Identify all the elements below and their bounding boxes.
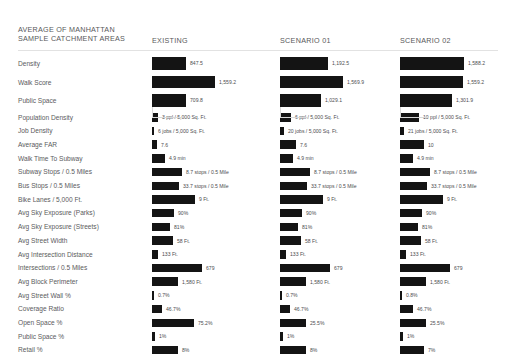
bar-value-label: 9 Ft. <box>447 196 457 202</box>
bar-value-label: 6 jobs / 5,000 Sq. Ft. <box>158 128 205 134</box>
bar-value-label: 81% <box>302 224 312 230</box>
bar-value-label: 33.7 stops / 0.5 Mile <box>183 183 229 189</box>
bar-value-label: 1,029.1 <box>325 97 342 103</box>
row-label: Bike Lanes / 5,000 Ft. <box>18 196 82 204</box>
bar <box>400 332 403 341</box>
group-connector <box>280 107 309 118</box>
page-title: AVERAGE OF MANHATTAN SAMPLE CATCHMENT AR… <box>18 25 148 44</box>
bar-value-label: 9 Ft. <box>327 196 337 202</box>
column-header-scenario-02: SCENARIO 02 <box>400 36 451 45</box>
bar <box>280 127 284 136</box>
bar <box>280 182 307 191</box>
column-header-scenario-01: SCENARIO 01 <box>280 36 331 45</box>
bar-value-label: 133 Ft. <box>410 251 426 257</box>
bar <box>400 209 422 218</box>
bar <box>400 236 421 245</box>
bar <box>400 168 430 177</box>
bar <box>280 94 321 107</box>
bar <box>152 76 215 89</box>
bar <box>152 264 202 273</box>
bar <box>400 195 443 204</box>
bar <box>280 223 298 232</box>
bar-value-label: 58 Ft. <box>177 238 190 244</box>
row-label: Public Space <box>18 97 57 105</box>
header-divider <box>18 50 498 51</box>
bar <box>400 346 424 355</box>
bar <box>400 277 426 286</box>
row-label: Job Density <box>18 127 52 135</box>
bar-value-label: 1,301.9 <box>456 97 473 103</box>
bar-value-label: 81% <box>174 224 184 230</box>
bar-value-label: 90% <box>178 210 188 216</box>
bar <box>400 57 464 70</box>
bar <box>280 291 282 300</box>
bar-value-label: 1,580 Ft. <box>310 279 330 285</box>
bar-value-label: 46.7% <box>294 306 308 312</box>
bar-value-label: 7.6 <box>300 142 307 148</box>
bar <box>152 94 186 107</box>
bar-value-label: 133 Ft. <box>290 251 306 257</box>
bar <box>400 127 404 136</box>
bar-value-label: 25.5% <box>430 320 444 326</box>
bar <box>152 305 162 314</box>
row-label: Open Space % <box>18 319 62 327</box>
bar <box>152 168 182 177</box>
bar <box>280 76 343 89</box>
bar <box>280 264 330 273</box>
bar <box>280 277 306 286</box>
bar-value-label: 33.7 stops / 0.5 Mile <box>311 183 357 189</box>
bar-value-label: 1,580 Ft. <box>430 279 450 285</box>
bar <box>280 250 286 259</box>
row-label: Avg Street Width <box>18 237 67 245</box>
bar-value-label: 1% <box>287 333 294 339</box>
bar-value-label: 8.7 stops / 0.5 Mile <box>434 169 477 175</box>
bar-value-label: 4.9 min <box>417 155 434 161</box>
bar-value-label: 1% <box>407 333 414 339</box>
bar-value-label: 1% <box>159 333 166 339</box>
row-label: Coverage Ratio <box>18 305 64 313</box>
bar <box>152 319 194 328</box>
row-label: Walk Score <box>18 79 51 87</box>
bar <box>280 168 310 177</box>
row-label: Retail % <box>18 346 43 354</box>
bar <box>152 209 174 218</box>
group-connector <box>400 107 429 118</box>
bar-value-label: 58 Ft. <box>425 238 438 244</box>
bar-value-label: 1,559.2 <box>467 79 484 85</box>
group-connector <box>152 107 181 118</box>
bar <box>400 76 463 89</box>
bar <box>280 209 302 218</box>
row-label: Average FAR <box>18 141 57 149</box>
bar <box>400 140 424 149</box>
row-label: Subway Stops / 0.5 Miles <box>18 168 92 176</box>
bar-value-label: 709.8 <box>190 97 203 103</box>
bar-value-label: 21 jobs / 5,000 Sq. Ft. <box>408 128 458 134</box>
bar <box>280 346 306 355</box>
bar-value-label: 679 <box>454 265 463 271</box>
row-label: Avg Sky Exposure (Streets) <box>18 223 99 231</box>
bar <box>152 346 178 355</box>
bar-value-label: 20 jobs / 5,000 Sq. Ft. <box>288 128 338 134</box>
bar-value-label: 8% <box>310 347 317 353</box>
bar <box>152 57 186 70</box>
bar <box>152 277 178 286</box>
bar-value-label: 81% <box>422 224 432 230</box>
bar-value-label: 90% <box>306 210 316 216</box>
bar <box>152 223 170 232</box>
bar-value-label: 0.7% <box>158 292 170 298</box>
bar <box>152 127 154 136</box>
bar <box>400 94 452 107</box>
row-label: Public Space % <box>18 333 64 341</box>
bar-value-label: 7.6 <box>161 142 168 148</box>
row-label: Avg Sky Exposure (Parks) <box>18 209 95 217</box>
bar-value-label: 1,559.2 <box>219 79 236 85</box>
infographic-sheet: AVERAGE OF MANHATTAN SAMPLE CATCHMENT AR… <box>0 0 508 362</box>
bar-value-label: 1,192.5 <box>332 60 349 66</box>
bar-value-label: 10 <box>428 142 434 148</box>
bar-value-label: 1,580 Ft. <box>182 279 202 285</box>
bar <box>152 140 157 149</box>
row-label: Bus Stops / 0.5 Miles <box>18 182 80 190</box>
bar-value-label: 75.2% <box>198 320 212 326</box>
bar <box>280 57 328 70</box>
bar-value-label: 133 Ft. <box>162 251 178 257</box>
